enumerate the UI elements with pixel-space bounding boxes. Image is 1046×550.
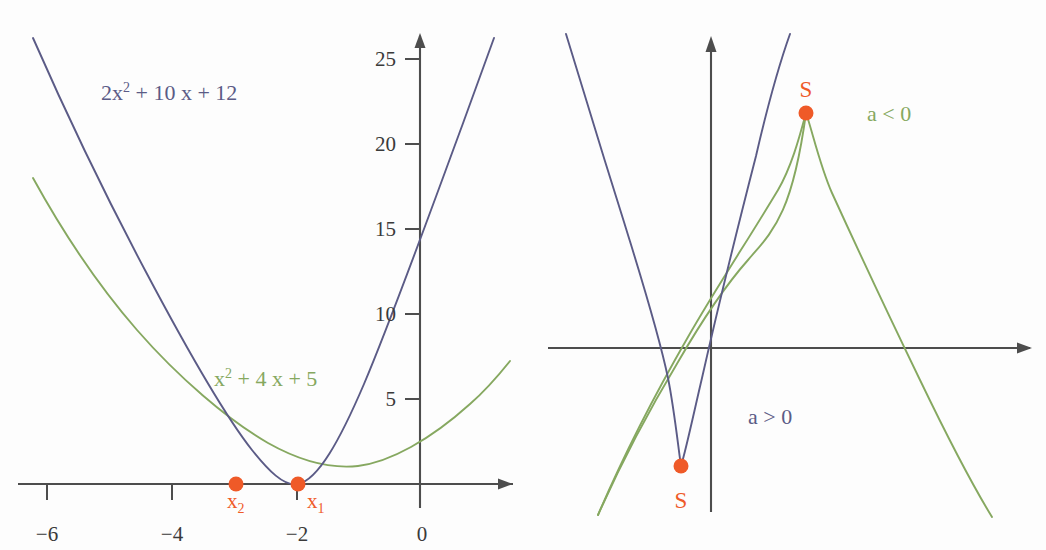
- left-x-axis-arrow: [498, 479, 513, 490]
- right-y-axis-arrow: [706, 36, 717, 52]
- left-y-axis: [415, 33, 426, 508]
- left-x-axis: [18, 479, 513, 490]
- left-root-marker-x1[interactable]: [291, 477, 306, 492]
- left-y-axis-arrow: [415, 33, 426, 48]
- right-vertex-label-top: S: [800, 77, 813, 102]
- left-xtick-label-3: 0: [417, 522, 428, 546]
- right-x-axis: [548, 343, 1032, 354]
- left-root-label-x2: x2: [227, 489, 245, 516]
- right-sign-label-positive: a > 0: [748, 404, 792, 429]
- left-curve-green: [33, 178, 510, 467]
- right-x-axis-arrow: [1017, 343, 1032, 354]
- right-vertex-marker-min[interactable]: [674, 459, 689, 474]
- parabola-figure: 2x2 + 10 x + 12 x2 + 4 x + 5 x2 x1 −6 −4…: [0, 0, 1046, 550]
- figure-root: 2x2 + 10 x + 12 x2 + 4 x + 5 x2 x1 −6 −4…: [0, 0, 1046, 550]
- left-ytick-label-0: 5: [386, 387, 397, 411]
- left-equation-blue: 2x2 + 10 x + 12: [101, 80, 237, 105]
- left-xtick-label-2: −2: [286, 522, 308, 546]
- left-equation-green: x2 + 4 x + 5: [214, 366, 317, 391]
- left-ytick-label-3: 20: [375, 132, 396, 156]
- right-sign-label-negative: a < 0: [867, 101, 911, 126]
- right-y-axis: [706, 36, 717, 512]
- left-ytick-label-2: 15: [375, 217, 396, 241]
- right-panel: S S a < 0 a > 0: [0, 0, 1032, 517]
- right-vertex-label-bottom: S: [675, 488, 688, 513]
- right-curve-green-down: [0, 0, 806, 515]
- left-xtick-label-0: −6: [36, 522, 58, 546]
- left-ytick-label-4: 25: [375, 47, 396, 71]
- left-root-label-x1: x1: [307, 489, 325, 516]
- left-xtick-label-1: −4: [161, 522, 184, 546]
- left-panel: 2x2 + 10 x + 12 x2 + 4 x + 5 x2 x1 −6 −4…: [18, 33, 513, 546]
- right-vertex-marker-max[interactable]: [799, 106, 814, 121]
- left-ytick-label-1: 10: [375, 302, 396, 326]
